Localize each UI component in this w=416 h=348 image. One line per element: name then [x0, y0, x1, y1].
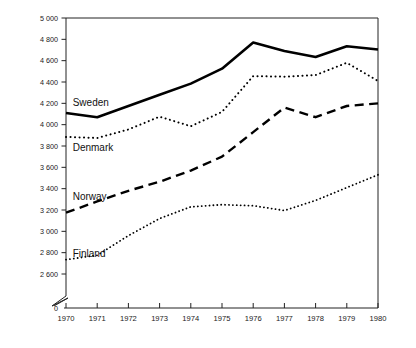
- y-tick-label: 5 000: [40, 14, 58, 23]
- line-chart: 02 6002 8003 0003 2003 4003 6003 8004 00…: [0, 0, 416, 348]
- series-label-finland: Finland: [73, 248, 106, 259]
- y-tick-label: 3 400: [40, 184, 58, 193]
- x-tick-label: 1977: [276, 314, 293, 323]
- y-tick-label: 2 600: [40, 270, 58, 279]
- chart-container: 02 6002 8003 0003 2003 4003 6003 8004 00…: [0, 0, 416, 348]
- x-tick-label: 1978: [307, 314, 324, 323]
- y-tick-label: 3 200: [40, 206, 58, 215]
- x-tick-label: 1971: [89, 314, 106, 323]
- chart-background: [0, 0, 416, 348]
- series-label-sweden: Sweden: [73, 97, 109, 108]
- x-tick-label: 1979: [338, 314, 355, 323]
- x-tick-label: 1976: [245, 314, 262, 323]
- x-tick-label: 1973: [151, 314, 168, 323]
- y-tick-label: 3 000: [40, 227, 58, 236]
- x-tick-label: 1974: [182, 314, 199, 323]
- y-tick-label: 3 600: [40, 163, 58, 172]
- y-tick-label: 4 000: [40, 120, 58, 129]
- y-tick-label: 4 600: [40, 56, 58, 65]
- series-label-norway: Norway: [73, 191, 107, 202]
- x-tick-label: 1970: [58, 314, 75, 323]
- x-tick-label: 1972: [120, 314, 137, 323]
- x-tick-label: 1975: [214, 314, 231, 323]
- y-tick-label: 2 800: [40, 248, 58, 257]
- y-tick-label: 4 200: [40, 99, 58, 108]
- x-tick-label: 1980: [370, 314, 387, 323]
- series-label-denmark: Denmark: [73, 142, 115, 153]
- y-tick-label: 4 400: [40, 78, 58, 87]
- y-tick-label: 3 800: [40, 142, 58, 151]
- y-tick-label: 4 800: [40, 35, 58, 44]
